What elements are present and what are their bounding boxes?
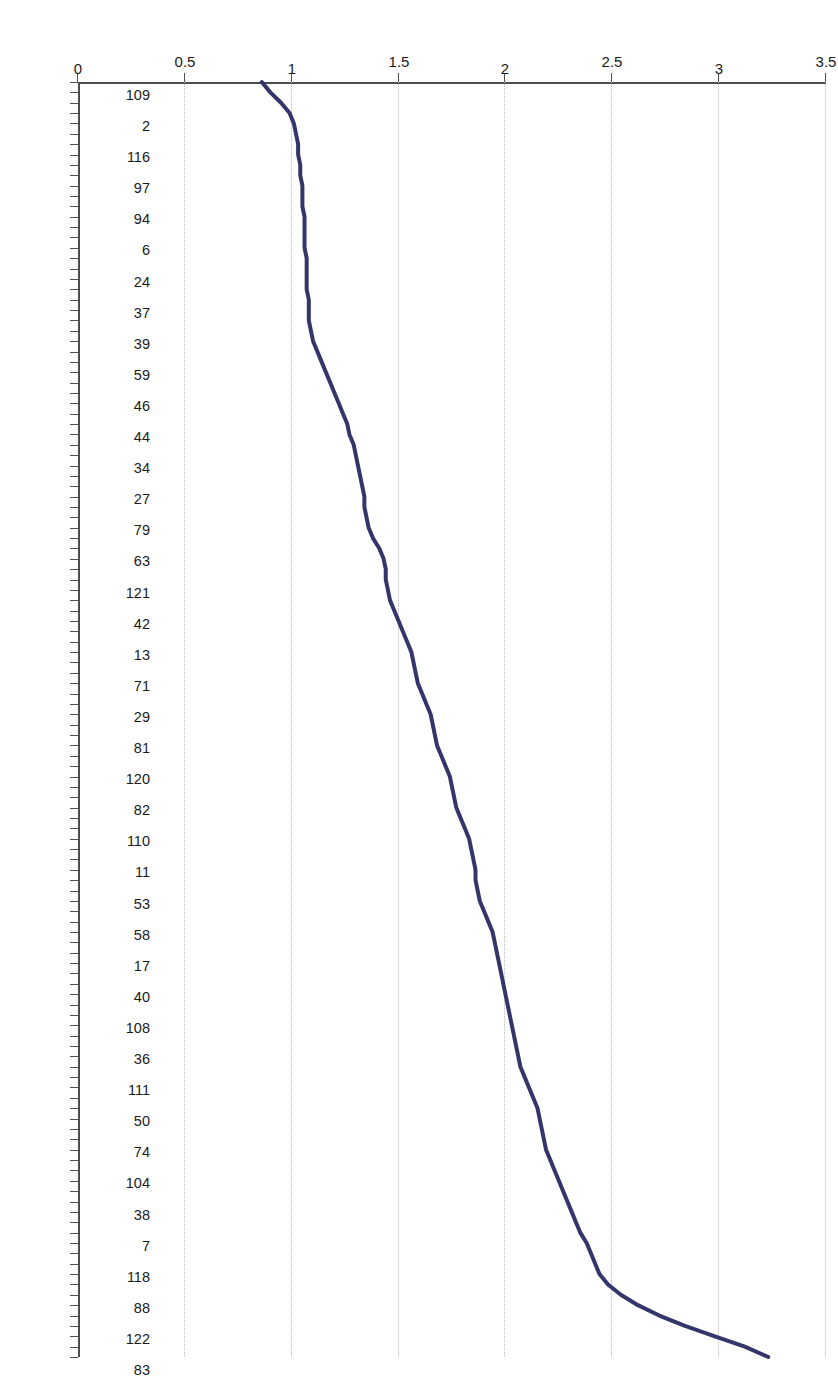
x-tick	[70, 611, 78, 612]
x-tick-label: 6	[63, 237, 64, 238]
x-tick-label: 83	[63, 1357, 64, 1358]
x-tick	[70, 486, 78, 487]
x-tick-label: 13	[63, 642, 64, 643]
x-tick	[70, 1067, 78, 1068]
x-tick	[70, 1098, 78, 1099]
x-tick	[70, 548, 78, 549]
gridline	[397, 82, 399, 1357]
x-tick	[70, 1077, 78, 1078]
x-tick	[70, 289, 78, 290]
x-tick	[70, 1036, 78, 1037]
rotated-figure-container: 00.511.522.533.5 10921169794624373959464…	[0, 0, 838, 1377]
x-tick-label: 38	[63, 1202, 64, 1203]
y-tick-label: 1.5	[390, 20, 407, 72]
x-tick	[70, 725, 78, 726]
x-tick	[70, 134, 78, 135]
y-tick	[184, 73, 185, 82]
x-tick-label: 44	[63, 424, 64, 425]
x-tick-label: 74	[63, 1139, 64, 1140]
x-tick	[70, 984, 78, 985]
x-tick	[70, 911, 78, 912]
x-tick-label: 88	[63, 1295, 64, 1296]
x-tick	[70, 320, 78, 321]
x-tick-label: 2	[63, 113, 64, 114]
x-tick	[70, 1264, 78, 1265]
x-tick-label: 29	[63, 704, 64, 705]
x-tick-label: 7	[63, 1233, 64, 1234]
x-tick-label: 53	[63, 891, 64, 892]
x-tick	[70, 165, 78, 166]
x-tick	[70, 196, 78, 197]
x-tick-label: 11	[63, 859, 64, 860]
x-tick	[70, 766, 78, 767]
x-tick	[70, 694, 78, 695]
gridline	[610, 82, 612, 1357]
x-tick	[70, 258, 78, 259]
y-tick-label: 2	[497, 20, 514, 72]
x-tick	[70, 82, 78, 83]
x-tick	[70, 424, 78, 425]
x-tick	[70, 455, 78, 456]
x-tick	[70, 113, 78, 114]
x-tick	[70, 237, 78, 238]
x-tick-label: 36	[63, 1046, 64, 1047]
x-tick	[70, 507, 78, 508]
x-tick	[70, 756, 78, 757]
x-tick	[70, 1357, 78, 1358]
x-tick	[70, 1316, 78, 1317]
x-tick-label: 79	[63, 517, 64, 518]
y-tick-label: 3.5	[818, 20, 835, 72]
plot-region: 00.511.522.533.5 10921169794624373959464…	[78, 82, 826, 1357]
x-tick	[70, 1284, 78, 1285]
x-tick	[70, 600, 78, 601]
x-tick	[70, 269, 78, 270]
x-tick	[70, 1202, 78, 1203]
gridline	[290, 82, 292, 1357]
x-tick	[70, 517, 78, 518]
x-tick	[70, 942, 78, 943]
x-tick	[70, 362, 78, 363]
series-polyline	[262, 82, 769, 1357]
x-tick	[70, 1015, 78, 1016]
x-tick-label: 81	[63, 735, 64, 736]
x-tick	[70, 891, 78, 892]
x-tick-label: 46	[63, 393, 64, 394]
x-tick	[70, 393, 78, 394]
y-tick	[825, 73, 826, 82]
x-tick	[70, 828, 78, 829]
x-tick-label: 120	[63, 766, 64, 767]
x-tick	[70, 569, 78, 570]
x-tick	[70, 1326, 78, 1327]
x-tick-label: 121	[63, 580, 64, 581]
x-tick-label: 108	[63, 1015, 64, 1016]
x-tick	[70, 662, 78, 663]
x-tick	[70, 880, 78, 881]
gridline	[503, 82, 505, 1357]
x-tick-label: 50	[63, 1108, 64, 1109]
x-tick	[70, 1170, 78, 1171]
x-tick	[70, 414, 78, 415]
x-tick	[70, 953, 78, 954]
x-tick	[70, 797, 78, 798]
x-tick-label: 109	[63, 82, 64, 83]
x-tick	[70, 206, 78, 207]
x-tick	[70, 631, 78, 632]
x-tick	[70, 922, 78, 923]
x-tick	[70, 331, 78, 332]
x-tick	[70, 175, 78, 176]
x-tick-label: 118	[63, 1264, 64, 1265]
y-tick-label: 1	[283, 20, 300, 72]
data-series-line	[78, 82, 826, 1357]
x-tick-label: 24	[63, 269, 64, 270]
x-tick-label: 82	[63, 797, 64, 798]
x-tick-label: 116	[63, 144, 64, 145]
x-tick	[70, 103, 78, 104]
gridline	[824, 82, 826, 1357]
x-tick	[70, 1046, 78, 1047]
x-tick	[70, 735, 78, 736]
x-tick	[70, 300, 78, 301]
x-tick	[70, 787, 78, 788]
x-tick	[70, 383, 78, 384]
gridline	[717, 82, 719, 1357]
x-tick	[70, 476, 78, 477]
